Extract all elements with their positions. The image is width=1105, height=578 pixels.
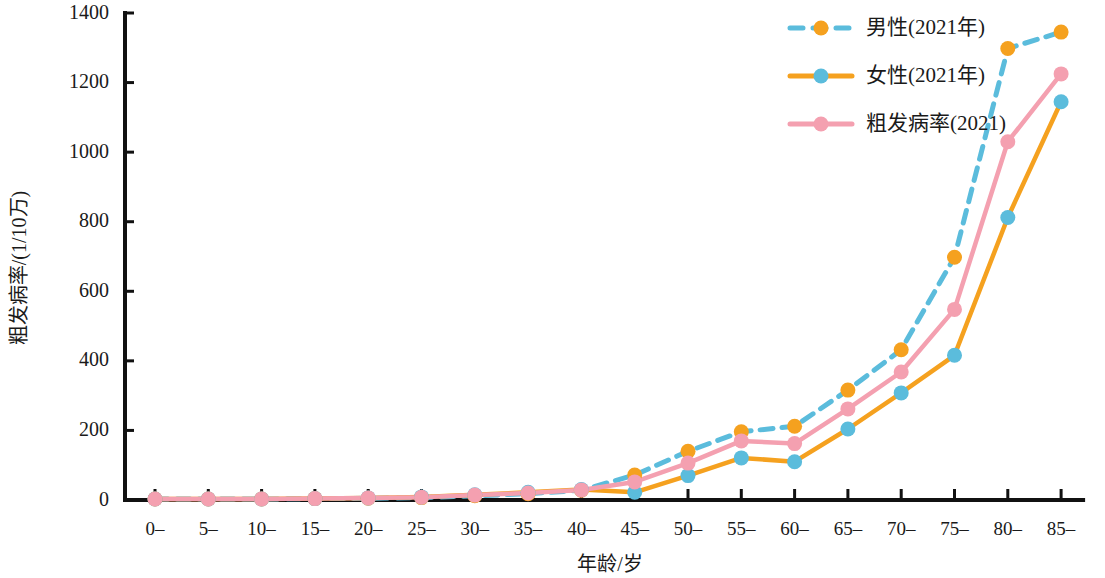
data-point <box>574 482 589 497</box>
x-tick-label: 55– <box>727 518 756 539</box>
data-point <box>787 436 802 451</box>
series-line-0 <box>155 32 1061 499</box>
series-line-1 <box>155 102 1061 499</box>
line-chart: 粗发病率/(1/10万) 0200400600800100012001400 0… <box>0 0 1105 578</box>
chart-legend: 男性(2021年)女性(2021年)粗发病率(2021) <box>790 15 1006 135</box>
data-point <box>1000 41 1015 56</box>
data-point <box>894 342 909 357</box>
x-tick-label: 5– <box>199 518 219 539</box>
series-markers-group <box>148 25 1069 507</box>
x-tick-label: 40– <box>567 518 596 539</box>
data-point <box>840 422 855 437</box>
x-tick-label: 30– <box>461 518 490 539</box>
data-point <box>894 385 909 400</box>
data-point <box>1054 94 1069 109</box>
x-tick-label: 65– <box>834 518 863 539</box>
data-point <box>467 488 482 503</box>
x-tick-label: 25– <box>407 518 436 539</box>
legend-label: 男性(2021年) <box>866 15 985 39</box>
data-point <box>947 302 962 317</box>
data-point <box>201 492 216 507</box>
x-tick-label: 85– <box>1047 518 1076 539</box>
y-tick-label: 1400 <box>69 1 109 23</box>
data-point <box>307 491 322 506</box>
legend-item-0[interactable]: 男性(2021年) <box>790 15 985 39</box>
data-point <box>681 456 696 471</box>
legend-label: 女性(2021年) <box>866 63 985 87</box>
series-lines-group <box>155 32 1061 499</box>
x-tick-label: 15– <box>301 518 330 539</box>
legend-marker-swatch <box>814 69 829 84</box>
data-point <box>947 348 962 363</box>
legend-marker-swatch <box>814 117 829 132</box>
x-tick-label: 80– <box>994 518 1023 539</box>
legend-marker-swatch <box>814 21 829 36</box>
x-axis-title: 年龄/岁 <box>577 553 643 575</box>
y-axis-title: 粗发病率/(1/10万) <box>8 191 31 345</box>
y-tick-label: 0 <box>99 488 109 510</box>
data-point <box>787 454 802 469</box>
data-point <box>894 365 909 380</box>
series-line-2 <box>155 74 1061 499</box>
x-tick-label: 45– <box>620 518 649 539</box>
y-tick-label: 200 <box>79 418 109 440</box>
x-tick-label: 60– <box>780 518 809 539</box>
legend-item-1[interactable]: 女性(2021年) <box>790 63 985 87</box>
data-point <box>414 490 429 505</box>
y-tick-label: 1200 <box>69 70 109 92</box>
data-point <box>734 450 749 465</box>
x-tick-label: 70– <box>887 518 916 539</box>
data-point <box>361 490 376 505</box>
x-tick-label: 50– <box>674 518 703 539</box>
y-tick-label: 400 <box>79 348 109 370</box>
legend-item-2[interactable]: 粗发病率(2021) <box>790 111 1006 135</box>
data-point <box>1054 66 1069 81</box>
data-point <box>787 419 802 434</box>
data-point <box>1054 25 1069 40</box>
x-tick-label: 0– <box>146 518 166 539</box>
data-point <box>1000 134 1015 149</box>
y-tick-label: 800 <box>79 209 109 231</box>
chart-figure: 粗发病率/(1/10万) 0200400600800100012001400 0… <box>0 0 1105 578</box>
data-point <box>1000 210 1015 225</box>
data-point <box>254 492 269 507</box>
data-point <box>840 383 855 398</box>
data-point <box>840 401 855 416</box>
x-tick-label: 20– <box>354 518 383 539</box>
x-tick-label: 10– <box>247 518 276 539</box>
data-point <box>521 486 536 501</box>
y-axis-tick-labels: 0200400600800100012001400 <box>69 1 109 510</box>
data-point <box>947 250 962 265</box>
y-tick-label: 600 <box>79 279 109 301</box>
data-point <box>627 474 642 489</box>
data-point <box>734 433 749 448</box>
x-tick-label: 35– <box>514 518 543 539</box>
x-tick-label: 75– <box>940 518 969 539</box>
legend-label: 粗发病率(2021) <box>866 111 1006 135</box>
x-axis-tick-labels: 0–5–10–15–20–25–30–35–40–45–50–55–60–65–… <box>146 518 1076 539</box>
y-tick-label: 1000 <box>69 140 109 162</box>
data-point <box>148 492 163 507</box>
